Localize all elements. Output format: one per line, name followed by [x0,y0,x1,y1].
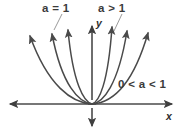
graph-canvas [0,0,183,134]
label-a-between-0-and-1: 0 < a < 1 [118,79,166,91]
curve-right-a-2 [92,31,127,104]
curve-left-a-0-6 [52,34,92,104]
y-axis-label: y [96,18,102,29]
leader-a-greater-1 [114,14,122,31]
curve-left-a-1 [68,30,92,104]
curve-branches-left [30,30,92,104]
exponential-parabola-figure: a = 1 a > 1 0 < a < 1 x y [0,0,183,134]
curve-branches-right [92,27,148,104]
label-a-equals-1: a = 1 [42,3,69,15]
leader-a-equals-1 [54,14,62,30]
label-a-greater-1: a > 1 [98,3,125,15]
x-axis-label: x [166,111,172,122]
curve-right-a-1 [92,27,112,104]
